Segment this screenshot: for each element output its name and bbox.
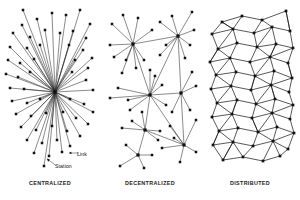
network-station-node xyxy=(289,30,292,33)
network-link xyxy=(219,131,233,142)
panel-caption-centralized: CENTRALIZED xyxy=(0,180,100,186)
network-station-node xyxy=(229,57,232,60)
network-link xyxy=(243,146,253,157)
network-station-node xyxy=(7,59,10,62)
network-station-node xyxy=(61,151,64,154)
network-link xyxy=(145,95,150,130)
network-link xyxy=(233,128,238,142)
network-link xyxy=(217,103,232,114)
network-link xyxy=(272,105,293,113)
network-station-node xyxy=(125,144,128,147)
decentralized-network-graph xyxy=(100,0,200,180)
panel-caption-decentralized: DECENTRALIZED xyxy=(100,180,200,186)
network-link xyxy=(223,157,243,160)
network-station-node xyxy=(19,62,22,65)
network-station-node xyxy=(131,42,134,45)
network-link xyxy=(181,93,190,110)
network-station-node xyxy=(69,98,72,101)
network-link xyxy=(242,16,262,20)
network-station-node xyxy=(211,33,214,36)
network-station-node xyxy=(33,152,36,155)
network-station-node xyxy=(288,91,291,94)
network-link xyxy=(233,142,243,157)
network-station-node xyxy=(48,155,51,158)
network-station-node xyxy=(195,119,198,122)
callout-label-station: Station xyxy=(55,163,72,169)
network-link xyxy=(232,100,237,114)
network-link xyxy=(223,142,233,160)
network-station-node xyxy=(35,129,38,132)
network-link xyxy=(271,85,275,99)
network-station-node xyxy=(221,21,224,24)
network-link xyxy=(12,92,55,101)
network-link xyxy=(258,132,273,141)
network-station-node xyxy=(15,113,18,116)
network-station-node xyxy=(159,54,162,57)
network-station-node xyxy=(82,49,85,52)
network-station-node xyxy=(217,48,220,51)
network-link xyxy=(255,71,274,76)
network-link xyxy=(126,145,138,155)
network-station-node xyxy=(262,160,265,163)
network-link xyxy=(55,92,70,146)
network-station-node xyxy=(289,118,292,121)
network-link xyxy=(150,36,178,95)
network-station-node xyxy=(274,98,277,101)
network-link xyxy=(213,142,233,145)
centralized-edges xyxy=(6,10,93,166)
network-link xyxy=(138,130,145,155)
network-link xyxy=(133,44,150,95)
network-link xyxy=(40,45,55,92)
network-station-node xyxy=(293,132,296,135)
network-link xyxy=(272,27,276,44)
panel-centralized: Link Station CENTRALIZED xyxy=(0,0,100,200)
network-station-node xyxy=(182,143,185,146)
network-link xyxy=(16,92,55,114)
callout-label-link: Link xyxy=(77,151,87,157)
network-link xyxy=(216,72,236,75)
network-link xyxy=(254,27,272,33)
network-station-node xyxy=(291,77,294,80)
network-link xyxy=(120,155,138,166)
distributed-edges xyxy=(210,11,294,161)
network-link xyxy=(243,157,263,161)
network-link xyxy=(212,117,219,131)
network-station-node xyxy=(237,127,240,130)
network-link xyxy=(286,11,290,31)
network-station-node xyxy=(159,130,162,133)
network-link xyxy=(122,128,145,130)
network-link xyxy=(162,145,184,148)
network-station-node xyxy=(122,14,125,17)
network-station-node xyxy=(287,62,290,65)
network-station-node xyxy=(51,12,54,15)
network-station-node xyxy=(26,47,29,50)
network-link xyxy=(138,155,144,168)
network-station-node xyxy=(21,24,24,27)
network-station-node xyxy=(271,112,274,115)
network-link xyxy=(21,92,55,127)
network-link xyxy=(210,49,218,62)
network-station-node xyxy=(59,32,62,35)
network-station-node xyxy=(79,9,82,12)
network-station-node xyxy=(179,161,182,164)
network-station-node xyxy=(161,147,164,150)
network-link xyxy=(181,72,192,93)
network-station-node xyxy=(11,100,14,103)
network-station-node xyxy=(29,71,32,74)
network-station-node xyxy=(272,140,275,143)
network-station-node xyxy=(66,130,69,133)
network-station-node xyxy=(287,148,290,151)
network-station-node xyxy=(141,111,144,114)
network-link xyxy=(262,11,286,20)
network-link xyxy=(250,47,257,62)
network-station-node xyxy=(92,111,95,114)
network-link xyxy=(211,89,217,103)
network-link xyxy=(34,59,55,92)
network-link xyxy=(289,92,293,105)
network-link xyxy=(178,30,194,36)
network-station-node xyxy=(117,87,120,90)
network-link xyxy=(251,76,255,90)
network-station-node xyxy=(151,154,154,157)
network-link xyxy=(210,62,216,75)
network-station-node xyxy=(111,23,114,26)
